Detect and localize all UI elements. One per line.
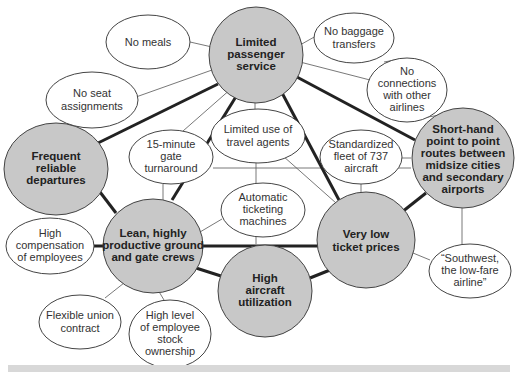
link-prices-routes [402, 193, 426, 212]
node-short-haul-routes: Short-handpoint to pointroutes betweenmi… [412, 108, 514, 208]
link-service-connections [300, 62, 370, 80]
node-no-baggage-transfers: No baggagetransfers [314, 13, 394, 63]
node-very-low-prices: Very lowticket prices [317, 192, 415, 288]
node-limited-travel-agents: Limited use oftravel agents [211, 109, 305, 163]
node-no-seat-assignments: No seatassignments [46, 72, 138, 128]
node-automatic-ticketing: Automaticticketingmachines [221, 183, 305, 237]
svg-text:Limited use oftravel agents: Limited use oftravel agents [224, 123, 293, 148]
node-high-utilization: Highaircraftutilization [218, 245, 312, 337]
node-no-connections: Noconnectionswith otherairlines [367, 58, 447, 122]
link-utilization-prices [310, 270, 330, 278]
svg-text:Automaticticketingmachines: Automaticticketingmachines [239, 191, 288, 227]
node-lean-crews: Lean, highlyproductive groundand gate cr… [102, 199, 204, 293]
node-no-meals: No meals [106, 15, 190, 69]
svg-text:No baggagetransfers: No baggagetransfers [324, 25, 384, 50]
link-service-meals [190, 42, 212, 47]
bottom-divider-band [8, 365, 510, 372]
link-departures-crews [100, 192, 116, 213]
node-flexible-union: Flexible unioncontract [39, 295, 121, 349]
node-gate-turnaround: 15-minutegateturnaround [129, 130, 213, 184]
node-limited-passenger-service: Limitedpassengerservice [209, 7, 303, 103]
node-standardized-fleet: Standardizedfleet of 737aircraft [320, 130, 402, 184]
activity-system-diagram: No meals No baggagetransfers Noconnectio… [0, 0, 518, 375]
link-crews-union [105, 283, 124, 298]
node-southwest-slogan: “Southwest,the low-fareairline” [429, 244, 511, 298]
node-high-compensation: Highcompensationof employees [6, 218, 94, 274]
node-frequent-reliable-departures: Frequentreliabledepartures [4, 123, 108, 215]
link-ticketing-crews [200, 219, 222, 232]
node-stock-ownership: High levelof employeestockownership [129, 300, 211, 368]
link-crews-utilization [196, 268, 221, 276]
svg-text:No meals: No meals [125, 36, 172, 48]
link-prices-slogan [413, 253, 430, 260]
